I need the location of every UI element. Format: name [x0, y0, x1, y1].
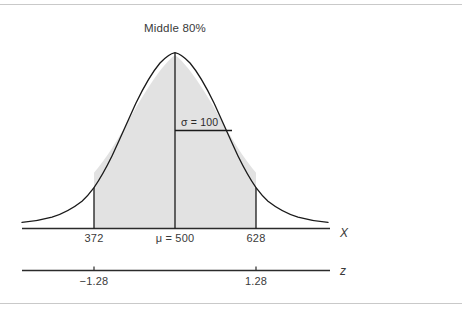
x-tick-label-mean: μ = 500	[156, 232, 195, 244]
normal-distribution-figure: Middle 80% σ = 100 372 μ = 500 628 X −1.…	[0, 0, 462, 315]
distribution-plot	[0, 0, 462, 315]
z-axis-label: z	[340, 264, 346, 278]
x-tick-label-lower: 372	[85, 232, 104, 244]
z-tick-label-lower: −1.28	[80, 275, 109, 287]
x-tick-label-upper: 628	[247, 232, 266, 244]
chart-title: Middle 80%	[144, 22, 206, 34]
x-axis-label: X	[340, 226, 348, 240]
sigma-label: σ = 100	[181, 116, 218, 128]
z-tick-label-upper: 1.28	[245, 275, 267, 287]
